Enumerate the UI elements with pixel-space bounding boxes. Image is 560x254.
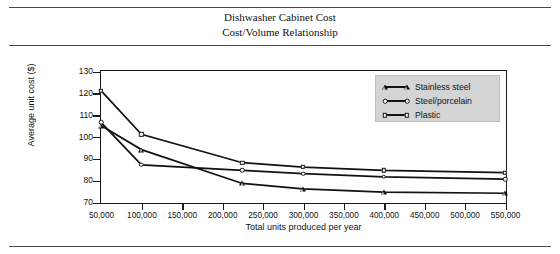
y-tick-110: [93, 115, 100, 116]
figure-page: Dishwasher Cabinet Cost Cost/Volume Rela…: [0, 0, 560, 254]
y-tick-130: [93, 72, 100, 73]
x-tick-label-50,000: 50,000: [89, 211, 114, 220]
legend-item-plastic[interactable]: Plastic: [381, 108, 494, 122]
data-point: [240, 160, 244, 164]
data-point: [99, 120, 104, 125]
x-tick-250,000: [263, 204, 264, 210]
y-tick-90: [93, 159, 100, 160]
x-tick-label-100,000: 100,000: [127, 211, 157, 220]
x-axis-title: Total units produced per year: [100, 222, 507, 232]
x-tick-label-350,000: 350,000: [329, 211, 359, 220]
x-tick-550,000: [506, 204, 507, 210]
legend-swatch-square-icon: [381, 110, 411, 120]
y-tick-label-80: 80: [66, 176, 93, 185]
y-tick-120: [93, 93, 100, 94]
x-tick-label-450,000: 450,000: [410, 211, 440, 220]
x-tick-150,000: [182, 204, 183, 210]
data-point: [382, 168, 386, 172]
data-point: [382, 175, 387, 180]
divider-bottom: [9, 246, 551, 247]
y-tick-label-90: 90: [66, 154, 93, 163]
data-point: [300, 186, 306, 191]
x-tick-label-150,000: 150,000: [167, 211, 197, 220]
chart-legend[interactable]: Stainless steel Steel/porcelain Plastic: [375, 75, 500, 122]
chart-area: Average unit cost ($) 708090100110120130…: [0, 52, 560, 237]
x-tick-label-200,000: 200,000: [208, 211, 238, 220]
data-point: [301, 171, 306, 176]
legend-label-stainless-steel: Stainless steel: [415, 82, 470, 92]
data-point: [139, 163, 144, 168]
x-tick-400,000: [384, 204, 385, 210]
data-point: [240, 168, 245, 173]
legend-label-steel-porcelain: Steel/porcelain: [415, 96, 472, 106]
x-tick-200,000: [223, 204, 224, 210]
data-point: [503, 177, 508, 182]
y-tick-label-100: 100: [66, 133, 93, 142]
legend-swatch-triangle-icon: [381, 82, 411, 92]
divider-top: [9, 7, 551, 8]
x-tick-350,000: [344, 204, 345, 210]
divider-under-title: [9, 45, 551, 46]
data-point: [139, 132, 143, 136]
figure-title: Dishwasher Cabinet Cost Cost/Volume Rela…: [0, 10, 560, 40]
legend-item-steel-porcelain[interactable]: Steel/porcelain: [381, 94, 494, 108]
y-tick-label-130: 130: [66, 67, 93, 76]
data-point: [99, 88, 103, 92]
x-tick-500,000: [465, 204, 466, 210]
y-tick-label-70: 70: [66, 198, 93, 207]
legend-label-plastic: Plastic: [415, 110, 440, 120]
x-tick-300,000: [304, 204, 305, 210]
data-point: [301, 165, 305, 169]
data-point: [138, 147, 144, 152]
x-tick-450,000: [425, 204, 426, 210]
data-point: [503, 170, 507, 174]
legend-item-stainless-steel[interactable]: Stainless steel: [381, 80, 494, 94]
y-tick-80: [93, 181, 100, 182]
x-tick-label-400,000: 400,000: [369, 211, 399, 220]
legend-swatch-circle-icon: [381, 96, 411, 106]
y-tick-100: [93, 137, 100, 138]
figure-title-line-1: Dishwasher Cabinet Cost: [0, 10, 560, 25]
y-tick-70: [93, 203, 100, 204]
figure-title-line-2: Cost/Volume Relationship: [0, 25, 560, 40]
y-axis-title: Average unit cost ($): [26, 37, 36, 173]
x-tick-label-300,000: 300,000: [289, 211, 319, 220]
data-point: [239, 181, 245, 186]
data-point: [381, 190, 387, 195]
x-tick-label-250,000: 250,000: [248, 211, 278, 220]
data-point: [502, 191, 508, 196]
x-tick-label-500,000: 500,000: [450, 211, 480, 220]
series-line-stainless-steel: [101, 126, 505, 194]
y-tick-label-120: 120: [66, 89, 93, 98]
x-tick-100,000: [142, 204, 143, 210]
y-tick-label-110: 110: [66, 111, 93, 120]
x-tick-label-550,000: 550,000: [491, 211, 521, 220]
